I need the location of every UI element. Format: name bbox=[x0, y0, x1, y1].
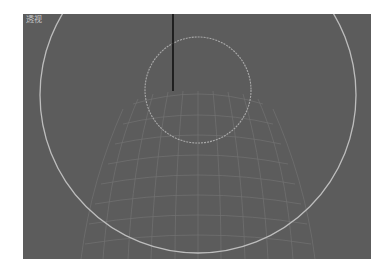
wireframe-mesh bbox=[81, 91, 315, 259]
viewport-scene bbox=[23, 14, 371, 259]
3d-viewport[interactable]: 透视 bbox=[23, 14, 371, 259]
